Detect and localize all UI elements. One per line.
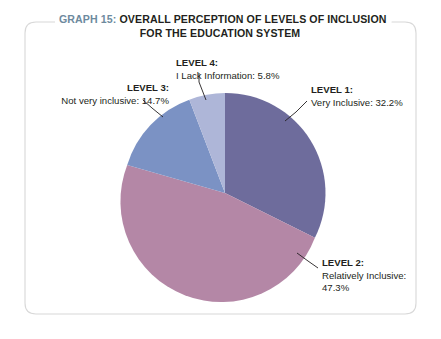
callout-level-4-heading: LEVEL 4: [176, 57, 279, 70]
callout-level-3: LEVEL 3: Not very inclusive: 14.7% [29, 82, 169, 107]
leader-line-level-1 [285, 101, 307, 121]
callout-level-3-value: Not very inclusive: 14.7% [29, 95, 169, 108]
callout-level-1-heading: LEVEL 1: [311, 84, 403, 97]
callout-level-2-heading: LEVEL 2: [322, 257, 418, 270]
callout-level-4-value: I Lack Information: 5.8% [176, 70, 279, 83]
callout-level-4: LEVEL 4: I Lack Information: 5.8% [176, 57, 279, 82]
graph-card: GRAPH 15: OVERALL PERCEPTION OF LEVELS O… [0, 0, 441, 339]
callout-level-2: LEVEL 2: Relatively Inclusive: 47.3% [322, 257, 418, 295]
callout-level-1: LEVEL 1: Very Inclusive: 32.2% [311, 84, 403, 109]
callout-level-3-heading: LEVEL 3: [29, 82, 169, 95]
callout-level-2-value: Relatively Inclusive: 47.3% [322, 270, 418, 295]
callout-level-1-value: Very Inclusive: 32.2% [311, 97, 403, 110]
